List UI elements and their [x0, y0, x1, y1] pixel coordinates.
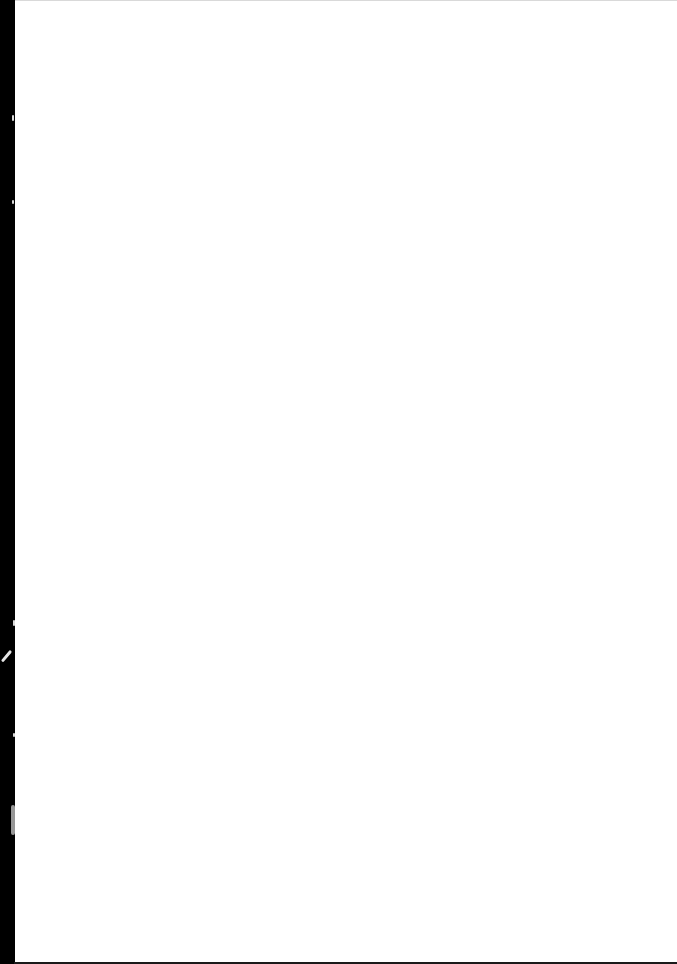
scan-speck	[12, 115, 14, 121]
scanned-page	[0, 0, 677, 964]
scan-speck	[12, 200, 14, 204]
blank-page-body	[15, 1, 677, 962]
